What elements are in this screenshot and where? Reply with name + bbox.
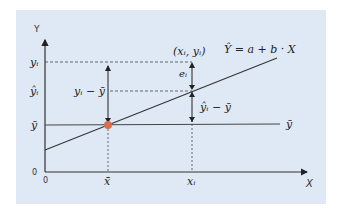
mean-line-label: ȳ	[285, 118, 293, 131]
centroid-point	[104, 121, 112, 129]
explained-deviation-label: ŷᵢ − ȳ	[199, 101, 232, 114]
y-axis-label: Y	[33, 24, 40, 34]
point-label: (xᵢ, yᵢ)	[173, 45, 205, 58]
tick-yi: yᵢ	[29, 56, 38, 69]
tick-xbar: x̄	[104, 175, 111, 188]
residual-label: eᵢ	[179, 68, 187, 79]
origin-x-label: 0	[43, 176, 48, 185]
regression-line	[45, 58, 277, 150]
equation-label: Ŷ = a + b · X	[224, 42, 297, 56]
tick-ybar: ȳ	[30, 119, 38, 132]
tick-xi: xᵢ	[187, 175, 195, 188]
regression-diagram: Y X 0 0 yᵢ ŷᵢ ȳ x̄ xᵢ ȳ Ŷ = a + b · X yᵢ…	[0, 0, 342, 213]
mean-line	[45, 124, 280, 125]
origin-y-label: 0	[32, 168, 37, 177]
x-axis-label: X	[305, 178, 314, 189]
tick-yhat-i: ŷᵢ	[29, 85, 38, 98]
total-deviation-label: yᵢ − ȳ	[73, 85, 106, 98]
